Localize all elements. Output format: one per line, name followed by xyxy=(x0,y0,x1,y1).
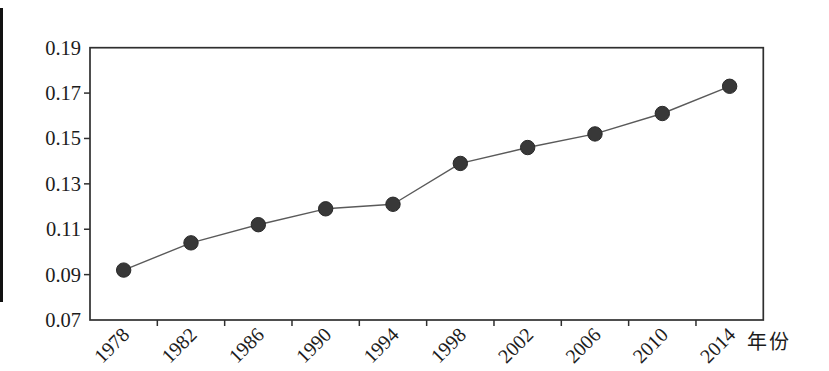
x-tick-label-1994: 1994 xyxy=(359,323,403,367)
y-tick-label: 0.19 xyxy=(45,37,81,59)
data-point-2010 xyxy=(655,106,669,120)
x-tick-label-2014: 2014 xyxy=(696,323,740,367)
figure: 0.190.170.150.130.110.090.07197819821986… xyxy=(0,0,829,371)
y-tick-label: 0.17 xyxy=(45,82,81,104)
y-tick-label: 0.09 xyxy=(45,264,81,286)
data-point-1998 xyxy=(453,156,467,170)
x-axis-title: 年份 xyxy=(747,326,791,355)
data-point-1978 xyxy=(116,263,130,277)
data-line xyxy=(124,86,730,270)
data-point-2014 xyxy=(722,79,736,93)
x-tick-label-1990: 1990 xyxy=(292,323,336,367)
x-tick-label-2002: 2002 xyxy=(494,323,538,367)
y-tick-label: 0.15 xyxy=(45,127,81,149)
x-tick-label-2006: 2006 xyxy=(561,323,605,367)
y-tick-label: 0.07 xyxy=(45,309,81,331)
data-point-1986 xyxy=(251,217,265,231)
x-tick-label-1998: 1998 xyxy=(426,323,470,367)
y-tick-label: 0.13 xyxy=(45,173,81,195)
data-point-2002 xyxy=(520,140,534,154)
x-tick-label-1982: 1982 xyxy=(157,323,201,367)
data-point-1994 xyxy=(386,197,400,211)
data-point-2006 xyxy=(588,127,602,141)
x-tick-label-1978: 1978 xyxy=(90,323,134,367)
y-tick-label: 0.11 xyxy=(46,218,81,240)
data-point-1990 xyxy=(318,202,332,216)
data-point-1982 xyxy=(184,236,198,250)
x-tick-label-2010: 2010 xyxy=(628,323,672,367)
line-chart: 0.190.170.150.130.110.090.07197819821986… xyxy=(0,0,829,371)
x-tick-label-1986: 1986 xyxy=(224,323,268,367)
